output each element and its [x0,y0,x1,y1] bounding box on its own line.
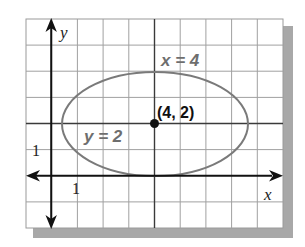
equation-label-x4: x = 4 [160,51,200,70]
y-tick-label: 1 [32,142,40,159]
x-axis-label: x [263,185,272,204]
y-axis-label: y [58,23,68,42]
point-label: (4, 2) [157,104,194,121]
ellipse-graph: y x 1 1 (4, 2) x = 4 y = 2 [0,0,305,247]
equation-label-y2: y = 2 [83,127,123,146]
x-tick-label: 1 [72,180,80,197]
